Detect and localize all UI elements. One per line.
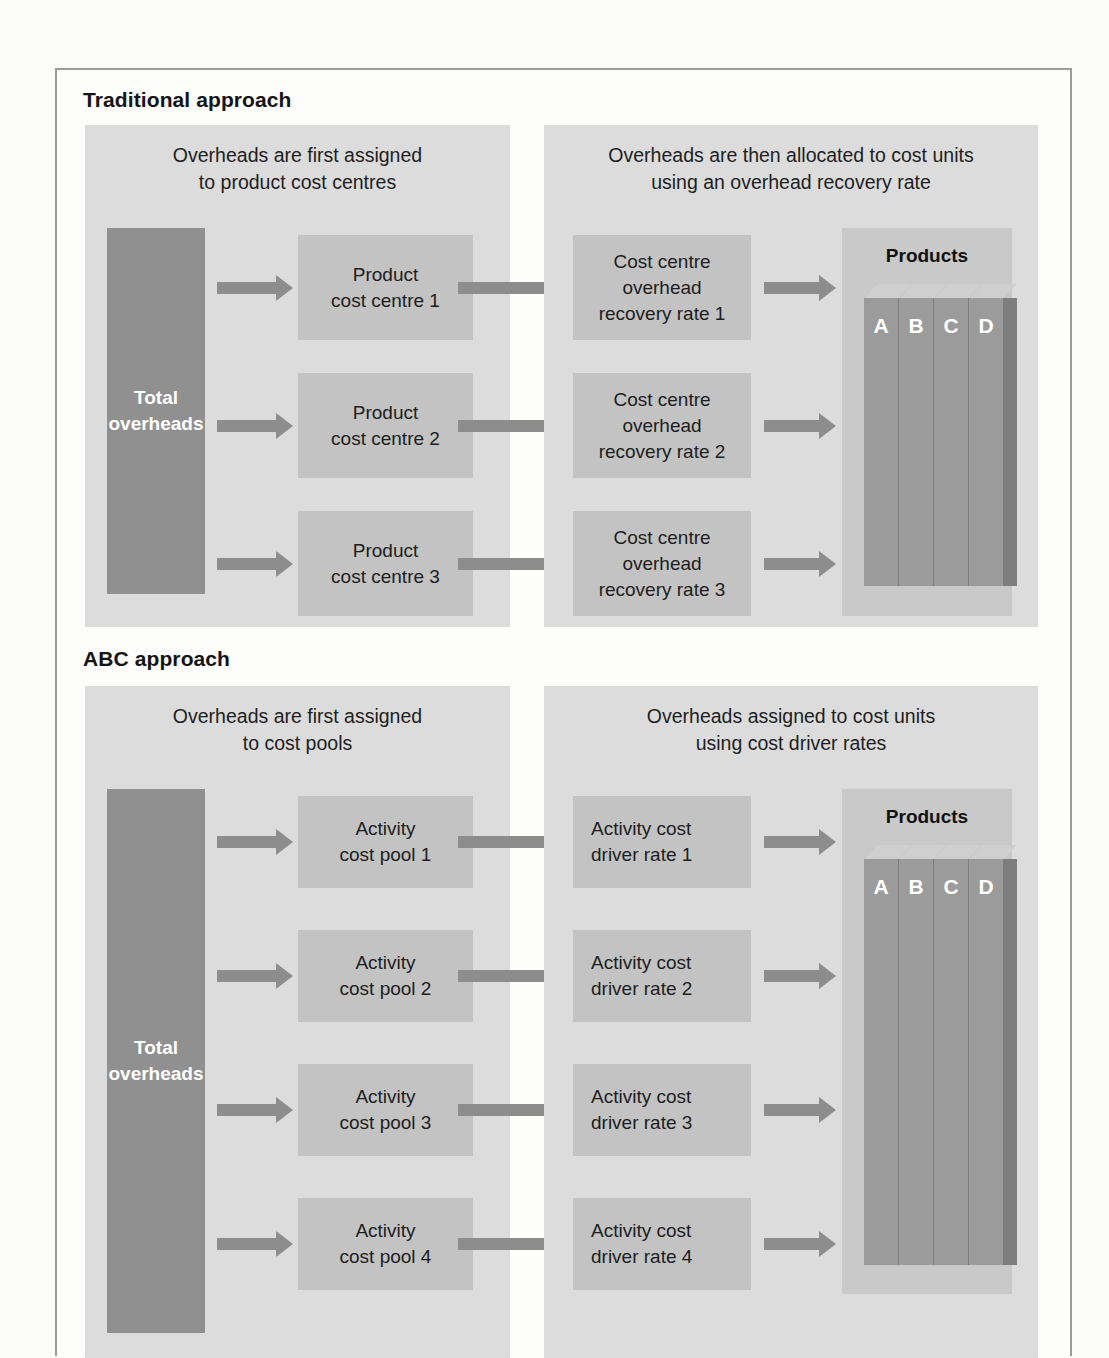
abc-left-caption-line2: to cost pools [85,730,510,757]
traditional-total-overheads-line1: Total overheads [107,385,205,437]
rr1-line1: Cost centre [599,249,726,275]
abc-product-bar-b: B [899,845,933,1265]
traditional-right-caption-line1: Overheads are then allocated to cost uni… [544,142,1038,169]
dr2-line1: Activity cost [591,950,692,976]
cp1-line2: cost pool 1 [340,842,432,868]
abc-cost-pool-box-1: Activity cost pool 1 [298,796,473,888]
abc-right-caption-line2: using cost driver rates [544,730,1038,757]
section-title-traditional: Traditional approach [83,88,292,112]
rr2-line2: overhead [599,413,726,439]
rr1-line3: recovery rate 1 [599,301,726,327]
arrow-total-to-cc2 [217,413,293,439]
traditional-recovery-rate-box-3: Cost centre overhead recovery rate 3 [573,511,751,616]
traditional-cost-centre-box-1: Product cost centre 1 [298,235,473,340]
dr4-line2: driver rate 4 [591,1244,692,1270]
abc-cost-pool-box-3: Activity cost pool 3 [298,1064,473,1156]
arrow-total-to-cc1 [217,275,293,301]
traditional-product-bar-b: B [899,284,933,586]
traditional-recovery-rate-box-1: Cost centre overhead recovery rate 1 [573,235,751,340]
cp3-line1: Activity [340,1084,432,1110]
abc-product-label-c: C [934,875,968,899]
traditional-left-caption-line1: Overheads are first assigned [85,142,510,169]
cp4-line2: cost pool 4 [340,1244,432,1270]
dr4-line1: Activity cost [591,1218,692,1244]
rr3-line1: Cost centre [599,525,726,551]
figure-frame: Traditional approach Overheads are first… [55,68,1072,1356]
traditional-recovery-rate-box-2: Cost centre overhead recovery rate 2 [573,373,751,478]
abc-driver-rate-box-4: Activity cost driver rate 4 [573,1198,751,1290]
traditional-left-caption-line2: to product cost centres [85,169,510,196]
traditional-product-bar-c: C [934,284,968,586]
arrow-rate2-to-products [764,413,836,439]
traditional-right-caption-line2: using an overhead recovery rate [544,169,1038,196]
traditional-product-bar-a: A [864,284,898,586]
arrow-driver3-to-products [764,1097,836,1123]
traditional-products-block: Products A B C [842,228,1012,616]
abc-product-label-d: D [969,875,1003,899]
traditional-cost-centre-box-3: Product cost centre 3 [298,511,473,616]
dr3-line2: driver rate 3 [591,1110,692,1136]
arrow-driver4-to-products [764,1231,836,1257]
rr2-line1: Cost centre [599,387,726,413]
abc-product-bar-c: C [934,845,968,1265]
cc1-line2: cost centre 1 [331,288,440,314]
arrow-rate3-to-products [764,551,836,577]
traditional-product-label-a: A [864,314,898,338]
dr1-line2: driver rate 1 [591,842,692,868]
cc3-line2: cost centre 3 [331,564,440,590]
traditional-product-label-d: D [969,314,1003,338]
arrow-abc-total-to-pool2 [217,963,293,989]
abc-driver-rate-box-3: Activity cost driver rate 3 [573,1064,751,1156]
abc-product-bar-a: A [864,845,898,1265]
abc-left-panel: Overheads are first assigned to cost poo… [85,686,510,1358]
traditional-cost-centre-box-2: Product cost centre 2 [298,373,473,478]
rr3-line3: recovery rate 3 [599,577,726,603]
arrow-abc-total-to-pool1 [217,829,293,855]
dr1-line1: Activity cost [591,816,692,842]
dr2-line2: driver rate 2 [591,976,692,1002]
cp3-line2: cost pool 3 [340,1110,432,1136]
cc2-line1: Product [331,400,440,426]
abc-driver-rate-box-1: Activity cost driver rate 1 [573,796,751,888]
traditional-product-bar-d: D [969,284,1003,586]
abc-left-caption-line1: Overheads are first assigned [85,703,510,730]
arrow-driver1-to-products [764,829,836,855]
traditional-left-panel: Overheads are first assigned to product … [85,125,510,627]
traditional-product-label-b: B [899,314,933,338]
rr3-line2: overhead [599,551,726,577]
abc-driver-rate-box-2: Activity cost driver rate 2 [573,930,751,1022]
cp4-line1: Activity [340,1218,432,1244]
cc1-line1: Product [331,262,440,288]
abc-cost-pool-box-2: Activity cost pool 2 [298,930,473,1022]
cc2-line2: cost centre 2 [331,426,440,452]
abc-product-label-b: B [899,875,933,899]
abc-total-overheads-text: Total overheads [107,1035,205,1087]
cp2-line2: cost pool 2 [340,976,432,1002]
abc-products-block: Products A B C [842,789,1012,1294]
rr1-line2: overhead [599,275,726,301]
cp1-line1: Activity [340,816,432,842]
section-title-abc: ABC approach [83,647,230,671]
rr2-line3: recovery rate 2 [599,439,726,465]
abc-cost-pool-box-4: Activity cost pool 4 [298,1198,473,1290]
traditional-product-label-c: C [934,314,968,338]
arrow-total-to-cc3 [217,551,293,577]
traditional-right-panel: Overheads are then allocated to cost uni… [544,125,1038,627]
dr3-line1: Activity cost [591,1084,692,1110]
abc-product-bar-d: D [969,845,1003,1265]
traditional-total-overheads-box: Total overheads [107,228,205,594]
abc-right-panel: Overheads assigned to cost units using c… [544,686,1038,1358]
abc-product-label-a: A [864,875,898,899]
abc-products-title: Products [842,806,1012,828]
abc-right-caption-line1: Overheads assigned to cost units [544,703,1038,730]
cp2-line1: Activity [340,950,432,976]
arrow-abc-total-to-pool3 [217,1097,293,1123]
traditional-products-title: Products [842,245,1012,267]
cc3-line1: Product [331,538,440,564]
abc-total-overheads-box: Total overheads [107,789,205,1333]
arrow-driver2-to-products [764,963,836,989]
arrow-rate1-to-products [764,275,836,301]
arrow-abc-total-to-pool4 [217,1231,293,1257]
